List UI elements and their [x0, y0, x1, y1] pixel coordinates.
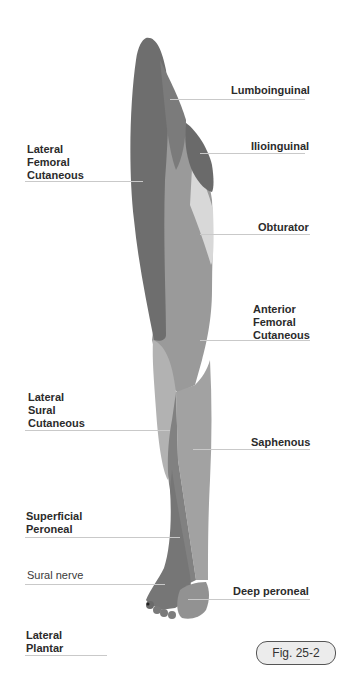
label-lateral-sural-cutaneous: Lateral Sural Cutaneous: [28, 391, 85, 430]
label-anterior-femoral-cutaneous: Anterior Femoral Cutaneous: [253, 303, 310, 342]
leader-ilioinguinal: [200, 153, 305, 154]
leader-sural-nerve: [25, 584, 165, 585]
toe-4: [168, 611, 176, 619]
label-lateral-femoral-cutaneous: Lateral Femoral Cutaneous: [27, 143, 84, 182]
label-ilioinguinal: Ilioinguinal: [251, 140, 309, 153]
toe-nail-dot: [147, 603, 150, 606]
leader-lumboinguinal: [170, 99, 305, 100]
leader-lateral-plantar: [25, 655, 107, 656]
label-saphenous: Saphenous: [251, 436, 310, 449]
leader-lateral-sural-cutaneous: [25, 430, 170, 431]
label-deep-peroneal: Deep peroneal: [233, 585, 309, 598]
leader-deep-peroneal: [188, 599, 310, 600]
label-superficial-peroneal: Superficial Peroneal: [26, 510, 82, 536]
label-lateral-plantar: Lateral Plantar: [26, 629, 63, 655]
label-obturator: Obturator: [258, 221, 309, 234]
toe-3: [160, 609, 168, 617]
leader-saphenous: [193, 449, 310, 450]
toe-2: [153, 606, 161, 614]
leader-obturator: [200, 234, 310, 235]
label-lumboinguinal: Lumboinguinal: [231, 84, 310, 97]
leader-superficial-peroneal: [25, 537, 180, 538]
label-sural-nerve: Sural nerve: [27, 569, 83, 582]
figure-label-badge: Fig. 25-2: [256, 641, 336, 665]
